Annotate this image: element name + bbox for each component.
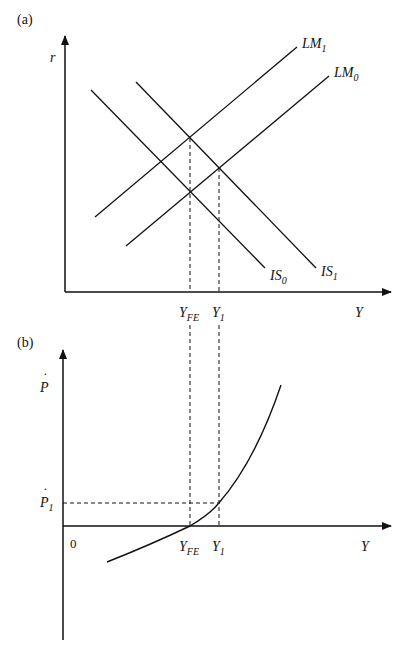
lm0-label: LM0 <box>333 65 358 83</box>
is0-curve <box>91 90 265 268</box>
lm0-curve <box>126 76 329 246</box>
p1-tick: P1 ˙ <box>39 486 54 513</box>
r-axis-label: r <box>50 50 56 65</box>
origin-label: 0 <box>70 536 77 551</box>
panel-a-label: (a) <box>17 12 33 28</box>
panel-b-label: (b) <box>17 335 34 351</box>
svg-text:˙: ˙ <box>43 486 48 501</box>
y1-tick-b: Y1 <box>212 539 225 557</box>
pdot-axis-dot: ˙ <box>43 371 48 386</box>
is-lm-phillips-diagram: (a) r Y LM1 LM0 IS0 IS1 YFE Y1 (b) P ˙ <box>0 0 402 659</box>
y1-tick-a: Y1 <box>212 305 225 323</box>
phillips-curve <box>107 385 281 562</box>
lm1-label: LM1 <box>301 36 326 54</box>
yfe-tick-a: YFE <box>179 305 199 323</box>
y-axis-a-label: Y <box>355 305 365 320</box>
y-axis-b-label: Y <box>361 539 371 554</box>
panel-a: (a) r Y LM1 LM0 IS0 IS1 YFE Y1 <box>17 12 391 323</box>
panel-b: (b) P ˙ 0 Y P1 ˙ YFE Y1 <box>17 335 391 640</box>
lm1-curve <box>95 47 297 217</box>
is1-label: IS1 <box>320 264 338 282</box>
yfe-tick-b: YFE <box>179 539 199 557</box>
is0-label: IS0 <box>269 268 287 286</box>
